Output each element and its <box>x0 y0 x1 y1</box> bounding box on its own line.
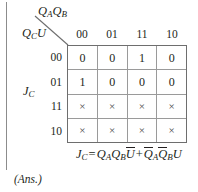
kmap-cell-dontcare: × <box>157 119 186 142</box>
left-axis-label: QCU <box>22 26 46 41</box>
result-equation: JC=QAQBU+QAQBU <box>76 147 182 162</box>
kmap-cell-dontcare: × <box>128 119 158 142</box>
answer-tag: (Ans.) <box>14 173 42 185</box>
row-header: 00 <box>40 45 64 70</box>
column-header: 01 <box>97 27 127 41</box>
kmap-row: × × × × <box>68 119 186 142</box>
equation-term2-f3: U <box>173 147 182 161</box>
output-label-sub: C <box>29 89 35 99</box>
top-axis-var-2: Q <box>53 4 62 18</box>
row-header: 01 <box>40 70 64 95</box>
top-axis-label: QAQB <box>38 4 67 19</box>
row-header: 10 <box>40 119 64 144</box>
kmap-row: 0 0 1 0 <box>68 46 186 70</box>
kmap-cell: 0 <box>98 46 128 69</box>
top-axis-var-1: Q <box>38 4 47 18</box>
column-header: 10 <box>157 27 187 41</box>
kmap-grid: 0 0 1 0 1 0 0 0 × × × × × × × × <box>67 45 187 143</box>
equation-lhs-sub: C <box>82 152 88 162</box>
equation-term2-f2-bar: Q <box>158 147 167 161</box>
equation-term2-f1-sub: A <box>153 152 159 162</box>
kmap-cell: 0 <box>98 70 128 93</box>
kmap-row: × × × × <box>68 95 186 119</box>
kmap-cell-dontcare: × <box>68 95 98 118</box>
kmap-cell-dontcare: × <box>68 119 98 142</box>
output-label-var: J <box>23 84 29 98</box>
kmap-cell-dontcare: × <box>157 95 186 118</box>
column-header-row: 00 01 11 10 <box>67 27 187 41</box>
equation-term1-f2: Q <box>111 147 120 161</box>
kmap-cell: 0 <box>157 46 186 69</box>
kmap-cell-dontcare: × <box>98 119 128 142</box>
equation-term1-f2-sub: B <box>120 152 126 162</box>
left-axis-sub-1: C <box>31 31 37 41</box>
kmap-cell-dontcare: × <box>98 95 128 118</box>
kmap-figure: QAQB QCU JC 00 01 11 10 00 01 11 10 0 0 … <box>0 0 198 192</box>
equation-term1-f3-bar: U <box>126 147 135 161</box>
kmap-cell: 0 <box>128 70 158 93</box>
equation-term1-f1-sub: A <box>106 152 112 162</box>
kmap-cell-dontcare: × <box>128 95 158 118</box>
equation-plus: + <box>135 147 144 161</box>
kmap-cell: 0 <box>68 46 98 69</box>
equation-term2-f2-sub: B <box>167 152 173 162</box>
left-axis-var-1: Q <box>22 26 31 40</box>
row-header: 11 <box>40 94 64 119</box>
row-header-column: 00 01 11 10 <box>40 45 64 143</box>
kmap-cell: 1 <box>68 70 98 93</box>
equation-term2-f1-bar: Q <box>144 147 153 161</box>
kmap-cell: 0 <box>157 70 186 93</box>
column-header: 00 <box>67 27 97 41</box>
kmap-row: 1 0 0 0 <box>68 70 186 94</box>
output-label: JC <box>23 84 35 99</box>
top-axis-sub-2: B <box>62 9 68 19</box>
equation-term1-f1: Q <box>97 147 106 161</box>
equation-equals: = <box>88 147 97 161</box>
kmap-cell: 1 <box>128 46 158 69</box>
page-margin-rule <box>6 2 7 170</box>
left-axis-var-2: U <box>37 26 46 40</box>
equation-lhs-var: J <box>76 147 82 161</box>
column-header: 11 <box>127 27 157 41</box>
top-axis-sub-1: A <box>47 9 53 19</box>
